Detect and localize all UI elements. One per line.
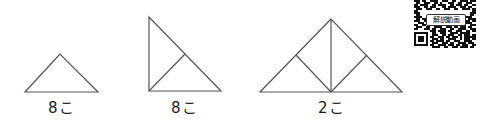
figure-label-large: 2こ — [318, 99, 345, 117]
figure-large-triangle — [260, 19, 402, 92]
figure-single-triangle — [25, 54, 98, 92]
figure-label-single: 8こ — [48, 99, 75, 117]
figure-label-split: 8こ — [171, 99, 198, 117]
qr-badge-label: 解説動画 — [426, 14, 466, 26]
figure-split-right-triangle — [149, 17, 221, 91]
